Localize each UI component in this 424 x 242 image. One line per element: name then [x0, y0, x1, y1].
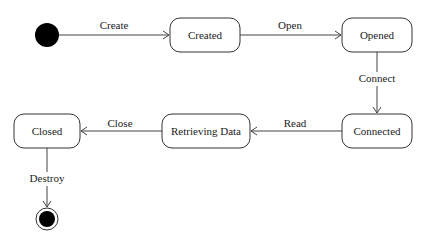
transition-label-close: Close — [107, 117, 132, 129]
transition-label-create: Create — [100, 19, 129, 31]
transition-label-destroy: Destroy — [30, 172, 65, 184]
state-label-opened: Opened — [360, 29, 395, 41]
state-opened: Opened — [342, 18, 412, 52]
transition-read: Read — [251, 117, 342, 135]
initial-state-node — [35, 23, 59, 47]
transition-label-connect: Connect — [359, 72, 396, 84]
state-connected: Connected — [342, 114, 412, 148]
final-state-node — [36, 208, 58, 230]
state-label-created: Created — [188, 29, 223, 41]
state-retrieving-data: Retrieving Data — [162, 114, 250, 148]
state-closed: Closed — [14, 114, 80, 148]
state-label-connected: Connected — [353, 125, 401, 137]
transition-open: Open — [240, 19, 341, 39]
transition-label-read: Read — [284, 117, 307, 129]
transition-label-open: Open — [278, 19, 302, 31]
transition-destroy: Destroy — [28, 148, 66, 207]
transition-close: Close — [81, 117, 162, 135]
state-created: Created — [170, 18, 240, 52]
transition-connect: Connect — [356, 52, 398, 113]
state-diagram: Create Open Connect Read Close Destroy C… — [0, 0, 424, 242]
state-label-closed: Closed — [32, 125, 63, 137]
state-label-retrieving-data: Retrieving Data — [171, 125, 241, 137]
transition-create: Create — [59, 19, 169, 39]
